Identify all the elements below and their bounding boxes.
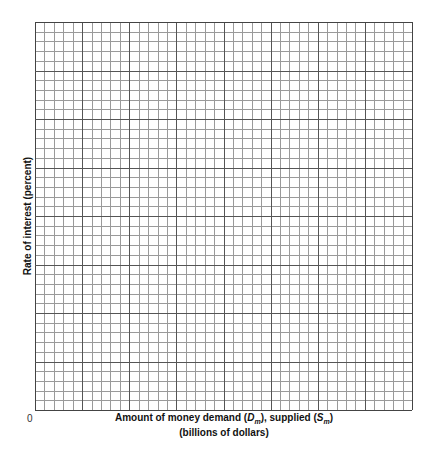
x-label-text: Amount of money demand ( [115, 412, 247, 423]
x-axis-label-line2: (billions of dollars) [115, 427, 333, 438]
x-axis-label-line1: Amount of money demand (Dm), supplied (S… [115, 412, 333, 427]
chart-grid [0, 0, 431, 457]
x-axis-label: Amount of money demand (Dm), supplied (S… [115, 412, 333, 438]
origin-label: 0 [27, 413, 33, 424]
x-label-text: ), supplied ( [261, 412, 317, 423]
y-axis-label: Rate of interest (percent) [22, 157, 33, 275]
x-label-text: ) [330, 412, 333, 423]
